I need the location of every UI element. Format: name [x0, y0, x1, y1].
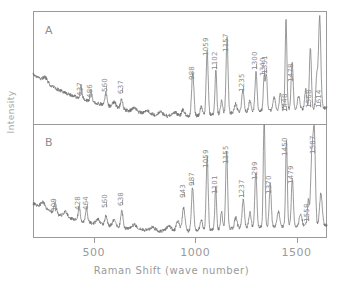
x-tick-1500 [297, 238, 298, 243]
peak-label-b-464: 464 [82, 196, 90, 210]
x-tick-label-1500: 1500 [282, 246, 312, 259]
peak-label-a-560: 560 [101, 78, 109, 92]
x-tick-label-1000: 1000 [180, 246, 210, 259]
peak-label-b-1587: 1587 [309, 135, 317, 154]
peak-label-b-943: 943 [179, 184, 187, 198]
peak-label-a-1059: 1059 [202, 37, 210, 56]
peak-label-b-1299: 1299 [251, 161, 259, 180]
peak-label-b-987: 987 [188, 172, 196, 186]
peak-label-b-1558: 1558 [303, 203, 311, 222]
peak-label-b-638: 638 [117, 192, 125, 206]
peak-label-a-1102: 1102 [211, 51, 219, 70]
peak-label-a-1235: 1235 [238, 73, 246, 92]
peak-label-b-560: 560 [101, 194, 109, 208]
peak-label-a-437: 437 [76, 82, 84, 96]
x-tick-1000 [195, 238, 196, 243]
peak-label-a-1351: 1351 [261, 55, 269, 74]
peak-label-a-1568: 1568 [305, 89, 313, 108]
peak-label-b-1101: 1101 [211, 175, 219, 194]
peak-label-b-1479: 1479 [287, 165, 295, 184]
x-tick-label-500: 500 [83, 246, 106, 259]
peak-label-b-1370: 1370 [265, 175, 273, 194]
peak-label-a-988: 988 [188, 66, 196, 80]
peak-label-a-1478: 1478 [287, 63, 295, 82]
peak-label-b-1059: 1059 [202, 149, 210, 168]
x-axis-title: Raman Shift (wave number) [0, 265, 343, 276]
peak-label-a-1157: 1157 [222, 33, 230, 52]
x-tick-500 [94, 238, 95, 243]
peak-label-a-637: 637 [117, 80, 125, 94]
peak-label-a-1614: 1614 [315, 89, 323, 108]
peak-label-b-1155: 1155 [222, 145, 230, 164]
peak-label-b-1237: 1237 [238, 179, 246, 198]
peak-label-a-486: 486 [86, 84, 94, 98]
peak-label-a-1448: 1448 [281, 93, 289, 112]
peak-label-b-1450: 1450 [281, 137, 289, 156]
peak-label-b-309: 309 [50, 198, 58, 212]
peak-label-a-1300: 1300 [251, 51, 259, 70]
raman-spectra-figure: A B 437486560637988105911021157123513001… [0, 0, 343, 286]
y-axis-title: Intensity [6, 77, 16, 147]
